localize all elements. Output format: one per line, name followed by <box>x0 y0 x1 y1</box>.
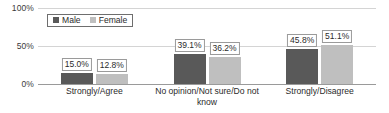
bar-male-strongly-agree[interactable]: 15.0% <box>61 73 93 84</box>
bar-female-strongly-agree[interactable]: 12.8% <box>96 74 128 84</box>
x-tick-label-strongly-disagree: Strongly/Disagree <box>263 86 376 107</box>
bars: 45.8% 51.1% <box>263 8 376 84</box>
legend: Male Female <box>47 14 133 27</box>
y-tick-label-50: 50% <box>0 42 34 51</box>
data-label-female-strongly-agree: 12.8% <box>97 59 127 72</box>
data-label-female-strongly-disagree: 51.1% <box>322 30 352 43</box>
legend-item-female[interactable]: Female <box>90 16 128 25</box>
legend-label-male: Male <box>62 16 81 25</box>
legend-swatch-female-icon <box>90 17 96 23</box>
legend-item-male[interactable]: Male <box>53 16 81 25</box>
bar-group-strongly-disagree: 45.8% 51.1% <box>263 8 376 84</box>
bar-chart: 100% 50% 0% 15.0% 12.8% <box>0 0 389 113</box>
bar-male-no-opinion[interactable]: 39.1% <box>174 54 206 84</box>
y-tick-label-100: 100% <box>0 4 34 13</box>
bar-male-strongly-disagree[interactable]: 45.8% <box>286 49 318 84</box>
y-axis: 100% 50% 0% <box>0 0 34 113</box>
axis-baseline-0 <box>38 84 376 85</box>
data-label-male-no-opinion: 39.1% <box>174 39 204 52</box>
legend-label-female: Female <box>99 16 128 25</box>
legend-swatch-male-icon <box>53 17 59 23</box>
data-label-female-no-opinion: 36.2% <box>209 42 239 55</box>
y-tick-label-0: 0% <box>0 80 34 89</box>
x-tick-label-no-opinion: No opinion/Not sure/Do not know <box>151 86 264 107</box>
data-label-male-strongly-disagree: 45.8% <box>287 34 317 47</box>
bar-group-no-opinion: 39.1% 36.2% <box>151 8 264 84</box>
x-tick-label-strongly-agree: Strongly/Agree <box>38 86 151 107</box>
data-label-male-strongly-agree: 15.0% <box>62 58 92 71</box>
x-axis-labels: Strongly/Agree No opinion/Not sure/Do no… <box>38 86 376 107</box>
bars: 39.1% 36.2% <box>151 8 264 84</box>
bar-female-no-opinion[interactable]: 36.2% <box>209 57 241 85</box>
bar-female-strongly-disagree[interactable]: 51.1% <box>321 45 353 84</box>
